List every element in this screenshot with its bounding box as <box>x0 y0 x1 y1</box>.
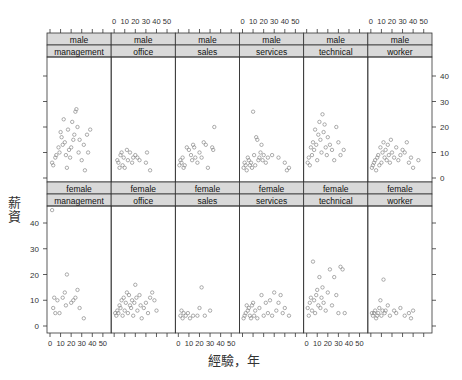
x-tick-label-bottom: 30 <box>334 339 342 348</box>
data-point <box>328 143 331 146</box>
data-point <box>318 275 321 278</box>
data-point <box>405 141 408 144</box>
data-point <box>407 311 410 314</box>
data-point <box>330 304 333 307</box>
data-point <box>279 293 282 296</box>
y-tick-label-left: 0 <box>35 322 40 331</box>
data-point <box>144 301 147 304</box>
data-point <box>181 156 184 159</box>
strip-gender-label: male <box>327 35 346 45</box>
data-point <box>287 314 290 317</box>
panel-female-office: femaleoffice <box>111 182 175 333</box>
data-point <box>64 304 67 307</box>
data-point <box>155 309 158 312</box>
data-point <box>134 283 137 286</box>
data-point <box>60 136 63 139</box>
panel-female-sales: femalesales <box>175 182 239 333</box>
x-tick-label-bottom: 50 <box>99 339 107 348</box>
strip-gender-label: female <box>323 184 349 194</box>
data-point <box>309 296 312 299</box>
data-point <box>59 130 62 133</box>
x-tick-label-bottom: 10 <box>185 339 193 348</box>
x-tick-label-top: 10 <box>121 17 129 26</box>
data-point <box>259 151 262 154</box>
y-tick-label-right: 10 <box>440 149 449 158</box>
x-tick-label-top: 20 <box>388 17 396 26</box>
y-tick-label-left: 20 <box>30 271 39 280</box>
data-point <box>196 314 199 317</box>
panel-female-management: femalemanagement <box>47 182 111 333</box>
panel-frame <box>304 57 368 182</box>
data-point <box>260 143 263 146</box>
data-point <box>52 306 55 309</box>
data-point <box>254 309 257 312</box>
data-point <box>333 275 336 278</box>
data-point <box>312 148 315 151</box>
x-tick-label-bottom: 50 <box>227 339 235 348</box>
data-point <box>53 296 56 299</box>
data-point <box>54 311 57 314</box>
x-tick-label-bottom: 10 <box>313 339 321 348</box>
data-point <box>148 169 151 172</box>
strip-occupation-label: technical <box>319 196 353 206</box>
data-point <box>127 293 130 296</box>
data-point <box>50 208 53 211</box>
data-point <box>399 306 402 309</box>
data-point <box>388 161 391 164</box>
data-point <box>68 156 71 159</box>
panel-male-worker: maleworker <box>368 33 432 182</box>
data-point <box>130 161 133 164</box>
x-tick-label-bottom: 20 <box>195 339 203 348</box>
x-tick-label-bottom: 20 <box>324 339 332 348</box>
strip-occupation-label: services <box>256 196 287 206</box>
x-tick-label-top: 30 <box>398 17 406 26</box>
data-point <box>262 314 265 317</box>
x-tick-label-top: 40 <box>281 17 289 26</box>
data-point <box>270 314 273 317</box>
data-point <box>273 291 276 294</box>
data-point <box>74 296 77 299</box>
data-point <box>72 138 75 141</box>
data-point <box>325 153 328 156</box>
data-point <box>254 164 257 167</box>
data-point <box>145 151 148 154</box>
strip-occupation-label: sales <box>197 47 217 57</box>
data-point <box>73 133 76 136</box>
y-tick-label-left: 40 <box>30 219 39 228</box>
data-point <box>144 161 147 164</box>
data-point <box>268 299 271 302</box>
y-axis-label: 薪資 <box>8 196 22 224</box>
data-point <box>283 306 286 309</box>
data-point <box>342 148 345 151</box>
data-point <box>313 128 316 131</box>
y-tick-label-right: 0 <box>440 174 445 183</box>
data-point <box>381 151 384 154</box>
x-tick-label-top: 50 <box>291 17 299 26</box>
data-point <box>203 314 206 317</box>
panel-frame <box>47 57 111 182</box>
strip-occupation-label: worker <box>386 47 413 57</box>
data-point <box>65 273 68 276</box>
strip-gender-label: male <box>198 35 217 45</box>
x-tick-label-bottom: 30 <box>206 339 214 348</box>
data-point <box>122 296 125 299</box>
data-point <box>245 169 248 172</box>
x-tick-label-bottom: 40 <box>216 339 224 348</box>
data-point <box>310 309 313 312</box>
x-tick-label-bottom: 20 <box>67 339 75 348</box>
data-point <box>378 306 381 309</box>
data-point <box>309 146 312 149</box>
x-tick-label-top: 50 <box>163 17 171 26</box>
data-point <box>83 169 86 172</box>
panel-male-sales: malesales <box>175 33 239 182</box>
data-point <box>121 314 124 317</box>
x-tick-label-bottom: 0 <box>48 339 52 348</box>
data-point <box>308 164 311 167</box>
panel-male-technical: maletechnical <box>304 33 368 182</box>
data-point <box>118 166 121 169</box>
data-point <box>190 159 193 162</box>
data-point <box>194 156 197 159</box>
panel-female-technical: femaletechnical <box>304 182 368 333</box>
data-point <box>138 159 141 162</box>
data-point <box>343 311 346 314</box>
